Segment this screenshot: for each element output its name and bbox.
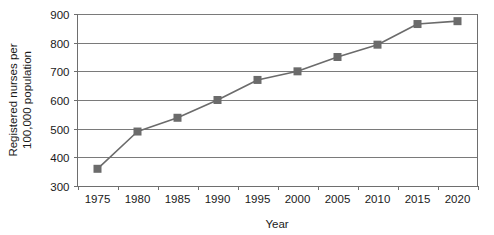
line-chart: 300400500600700800900 197519801985199019… <box>0 0 494 235</box>
data-point-2015 <box>414 20 422 28</box>
y-tick-label-600: 600 <box>50 95 69 107</box>
y-tick-label-500: 500 <box>50 124 69 136</box>
y-tick-label-700: 700 <box>50 66 69 78</box>
x-tick-label-2010: 2010 <box>365 193 391 205</box>
x-tick-label-2015: 2015 <box>405 193 431 205</box>
x-tick-labels: 1975198019851990199520002005201020152020 <box>85 193 471 205</box>
data-point-1985 <box>174 114 182 122</box>
x-tick-label-1980: 1980 <box>125 193 151 205</box>
y-axis: 300400500600700800900 <box>50 9 77 193</box>
x-tick-label-1975: 1975 <box>85 193 111 205</box>
x-tick-label-2000: 2000 <box>285 193 311 205</box>
y-tick-label-900: 900 <box>50 9 69 21</box>
data-point-1975 <box>94 165 102 173</box>
y-tick-label-300: 300 <box>50 181 69 193</box>
x-tick-label-1990: 1990 <box>205 193 231 205</box>
x-tick-label-2005: 2005 <box>325 193 351 205</box>
x-tick-label-2020: 2020 <box>445 193 471 205</box>
y-axis-title-line-1: Registered nurses per <box>7 43 19 156</box>
y-tick-labels: 300400500600700800900 <box>50 9 69 193</box>
x-tick-label-1985: 1985 <box>165 193 191 205</box>
x-tick-label-1995: 1995 <box>245 193 271 205</box>
y-tick-marks <box>74 15 78 187</box>
data-point-2005 <box>334 53 342 61</box>
chart-canvas: 300400500600700800900 197519801985199019… <box>0 0 494 235</box>
y-axis-title-line-2: 100,000 population <box>21 51 33 149</box>
data-point-2020 <box>454 17 462 25</box>
data-point-1995 <box>254 76 262 84</box>
x-axis-title: Year <box>265 218 288 230</box>
series-markers <box>94 17 462 173</box>
data-series-group <box>94 17 462 173</box>
gridlines-group <box>78 15 478 158</box>
data-point-1980 <box>134 128 142 136</box>
y-tick-label-800: 800 <box>50 38 69 50</box>
data-point-2010 <box>374 41 382 49</box>
x-axis: 1975198019851990199520002005201020152020 <box>78 14 479 205</box>
data-point-2000 <box>294 67 302 75</box>
y-tick-label-400: 400 <box>50 152 69 164</box>
data-point-1990 <box>214 96 222 104</box>
